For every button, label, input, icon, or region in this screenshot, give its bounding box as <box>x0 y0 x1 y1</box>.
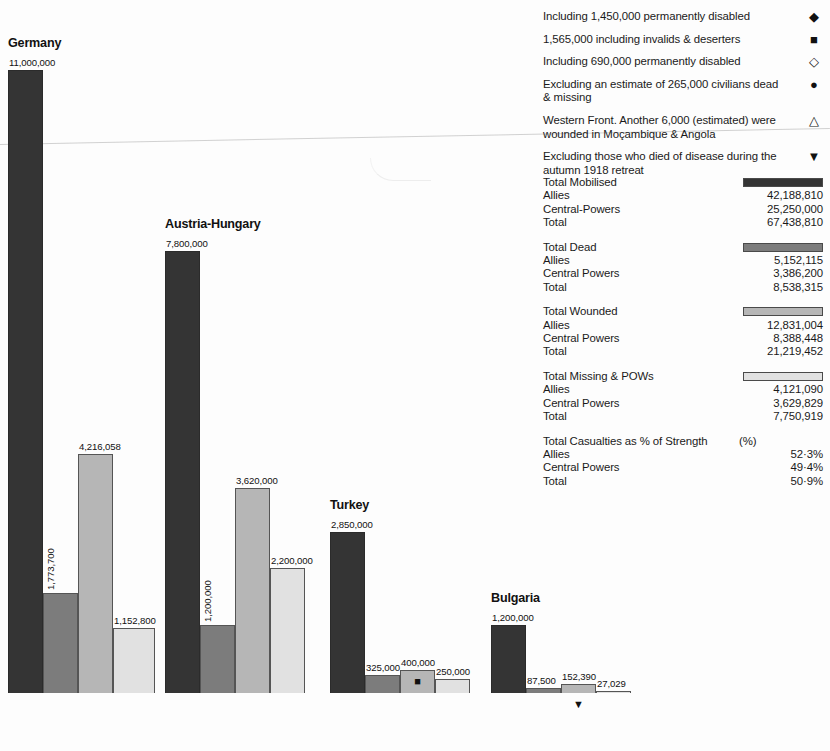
totals-row-value: 8,388,448 <box>739 332 823 345</box>
totals-row-value: 25,250,000 <box>739 203 823 216</box>
totals-group-header: Total Casualties as % of Strength(%) <box>543 435 823 448</box>
totals-group: Total WoundedAllies12,831,004Central Pow… <box>543 305 823 359</box>
bar: 3,620,000 <box>235 488 270 693</box>
totals-row: Central Powers3,386,200 <box>543 267 823 280</box>
totals-row-label: Central Powers <box>543 332 619 345</box>
totals-row: Central-Powers25,250,000 <box>543 203 823 216</box>
totals-row: Total8,538,315 <box>543 281 823 294</box>
totals-row-value: 21,219,452 <box>739 345 823 358</box>
footnote-text: Western Front. Another 6,000 (estimated)… <box>543 114 781 141</box>
totals-row: Allies12,831,004 <box>543 319 823 332</box>
totals-row-label: Total <box>543 410 567 423</box>
bar-value-label: 27,029 <box>597 679 626 689</box>
totals-group-header: Total Missing & POWs <box>543 370 823 383</box>
totals-row-value: 4,121,090 <box>739 383 823 396</box>
totals-row-label: Allies <box>543 189 570 202</box>
legend-swatch <box>743 243 823 252</box>
bar: 2,200,000 <box>270 568 305 693</box>
bar-value-label: 152,390 <box>562 672 596 682</box>
totals-row-label: Central-Powers <box>543 203 620 216</box>
footnote-row: 1,565,000 including invalids & deserters… <box>543 33 823 47</box>
bar-value-label: 3,620,000 <box>236 476 278 486</box>
totals-group: Total Missing & POWsAllies4,121,090Centr… <box>543 370 823 424</box>
bar-value-label: 1,200,000 <box>203 580 213 622</box>
legend-swatch <box>743 178 823 187</box>
totals-group-title: Total Dead <box>543 241 596 254</box>
totals-row-value: 50·9% <box>739 475 823 488</box>
totals-row-value: 3,629,829 <box>739 397 823 410</box>
totals-row: Central Powers8,388,448 <box>543 332 823 345</box>
totals-row: Total67,438,810 <box>543 216 823 229</box>
totals-group: Total Casualties as % of Strength(%)Alli… <box>543 435 823 489</box>
bar: 4,216,058 <box>78 454 113 693</box>
filled-square-icon: ■ <box>414 676 421 687</box>
totals-row: Allies42,188,810 <box>543 189 823 202</box>
totals-row-label: Total <box>543 345 567 358</box>
totals-group-header: Total Mobilised <box>543 176 823 189</box>
bar: 400,000■ <box>400 670 435 693</box>
totals-row-label: Allies <box>543 319 570 332</box>
totals-row-label: Allies <box>543 383 570 396</box>
totals-group: Total MobilisedAllies42,188,810Central-P… <box>543 176 823 230</box>
group-title-turkey: Turkey <box>330 498 369 512</box>
totals-row-label: Central Powers <box>543 397 619 410</box>
totals-row-label: Central Powers <box>543 461 619 474</box>
footnote-row: Including 1,450,000 permanently disabled… <box>543 10 823 24</box>
footnote-text: Including 690,000 permanently disabled <box>543 55 781 69</box>
totals-group-title: Total Missing & POWs <box>543 370 654 383</box>
bar-value-label: 1,200,000 <box>492 613 534 623</box>
filled-diamond-icon: ◆ <box>805 10 823 24</box>
bar: 1,200,000 <box>200 625 235 693</box>
bar-value-label: 1,152,800 <box>114 616 156 626</box>
totals-row-label: Total <box>543 216 567 229</box>
totals-row-label: Central Powers <box>543 267 619 280</box>
totals-row: Central Powers49·4% <box>543 461 823 474</box>
filled-square-icon: ■ <box>805 33 823 47</box>
legend-swatch <box>743 307 823 316</box>
group-title-austria-hungary: Austria-Hungary <box>165 217 261 231</box>
totals-row-value: 42,188,810 <box>739 189 823 202</box>
totals-row: Central Powers3,629,829 <box>543 397 823 410</box>
totals-row-value: 67,438,810 <box>739 216 823 229</box>
totals-row-value: 8,538,315 <box>739 281 823 294</box>
totals-row-value: 52·3% <box>739 448 823 461</box>
totals-row: Total50·9% <box>543 475 823 488</box>
filled-circle-icon: ● <box>805 78 823 92</box>
bar: 1,773,700 <box>43 593 78 693</box>
totals-row: Allies4,121,090 <box>543 383 823 396</box>
bar-value-label: 400,000 <box>401 658 435 668</box>
bar-value-label: 1,773,700 <box>46 548 56 590</box>
footnote-text: Excluding those who died of disease duri… <box>543 150 781 177</box>
bar: 250,000 <box>435 679 470 693</box>
totals-row-value: 5,152,115 <box>739 254 823 267</box>
page-root: Germany11,000,0001,773,7004,216,0581,152… <box>0 0 830 751</box>
bar-value-label: 2,850,000 <box>331 520 373 530</box>
totals-row-label: Total <box>543 281 567 294</box>
bar: 1,152,800 <box>113 628 155 693</box>
totals-row-label: Total <box>543 475 567 488</box>
totals-group-title: Total Wounded <box>543 305 617 318</box>
totals-row-value: 7,750,919 <box>739 410 823 423</box>
bar-value-label: 250,000 <box>436 667 470 677</box>
totals-summary-table: Total MobilisedAllies42,188,810Central-P… <box>543 176 823 499</box>
bar-value-label: 7,800,000 <box>166 239 208 249</box>
bar-chart: Germany11,000,0001,773,7004,216,0581,152… <box>0 0 540 751</box>
bar-value-label: 2,200,000 <box>271 556 313 566</box>
totals-row: Total21,219,452 <box>543 345 823 358</box>
bar: 87,500 <box>526 688 561 693</box>
totals-group-title: Total Mobilised <box>543 176 617 189</box>
footnote-row: Excluding an estimate of 265,000 civilia… <box>543 78 823 105</box>
footnote-text: Including 1,450,000 permanently disabled <box>543 10 781 24</box>
totals-row-value: 3,386,200 <box>739 267 823 280</box>
group-title-germany: Germany <box>8 36 61 50</box>
totals-group-header: Total Wounded <box>543 305 823 318</box>
totals-row-value: 49·4% <box>739 461 823 474</box>
totals-group: Total DeadAllies5,152,115Central Powers3… <box>543 241 823 295</box>
bar: 11,000,000 <box>8 70 43 693</box>
footnote-text: 1,565,000 including invalids & deserters <box>543 33 781 47</box>
totals-unit-label: (%) <box>739 435 823 448</box>
totals-row: Total7,750,919 <box>543 410 823 423</box>
bar: 7,800,000 <box>165 251 200 693</box>
open-diamond-icon: ◇ <box>805 55 823 69</box>
bar: 2,850,000 <box>330 532 365 693</box>
